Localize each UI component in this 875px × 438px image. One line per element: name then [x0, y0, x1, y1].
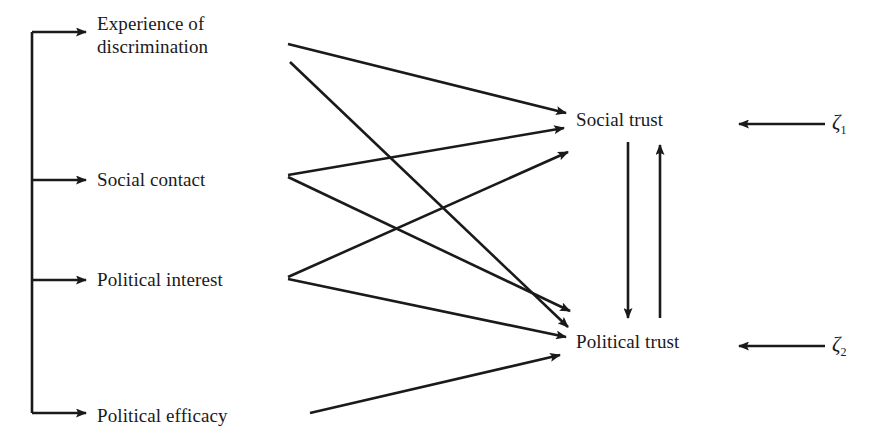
path-political-interest-to-social-trust	[288, 152, 568, 277]
node-label-line1: Political efficacy	[97, 405, 228, 426]
node-label-line1: Experience of	[97, 13, 204, 34]
node-label-line1: Political trust	[576, 331, 679, 352]
path-political-interest-to-political-trust	[288, 279, 566, 337]
path-social-contact-to-political-trust	[288, 177, 570, 311]
path-social-contact-to-social-trust	[288, 128, 564, 175]
zeta-symbol: ζ	[832, 110, 841, 134]
node-label-line1: Social contact	[97, 169, 206, 190]
node-label-line1: Political interest	[97, 269, 223, 290]
zeta-subscript: 1	[841, 123, 847, 137]
disturbance-zeta-2: ζ2	[832, 332, 847, 360]
node-political-efficacy: Political efficacy	[97, 404, 228, 427]
node-experience-of-discrimination: Experience ofdiscrimination	[97, 12, 208, 58]
node-political-interest: Political interest	[97, 268, 223, 291]
node-political-trust: Political trust	[576, 330, 679, 353]
path-diagram-canvas: Experience ofdiscrimination Social conta…	[0, 0, 875, 438]
zeta-subscript: 2	[841, 345, 847, 359]
diagram-arrows-layer	[0, 0, 875, 438]
node-social-contact: Social contact	[97, 168, 206, 191]
node-label-line1: Social trust	[576, 109, 663, 130]
disturbance-zeta-1: ζ1	[832, 110, 847, 138]
zeta-symbol: ζ	[832, 332, 841, 356]
path-discrimination-to-social-trust	[288, 44, 566, 113]
path-political-efficacy-to-political-trust	[310, 355, 560, 413]
node-social-trust: Social trust	[576, 108, 663, 131]
node-label-line2: discrimination	[97, 36, 208, 57]
